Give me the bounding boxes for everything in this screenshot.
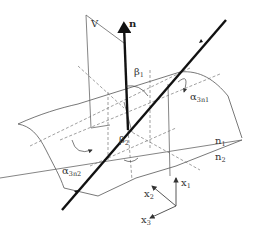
medium1-label: n1 — [215, 135, 226, 148]
plane-label: V — [90, 18, 99, 29]
medium2-label: n2 — [215, 151, 226, 164]
normal-label: n — [129, 18, 137, 29]
normal-vector — [124, 26, 128, 130]
alpha1-label: α3n1 — [190, 91, 209, 104]
ray — [62, 20, 226, 210]
x1-label: x1 — [181, 177, 191, 190]
x2-label: x2 — [144, 188, 154, 201]
plane-v — [86, 15, 124, 128]
refraction-diagram: n V β1 β2 α3n1 α3n2 n1 n2 x1 x2 x3 — [0, 0, 257, 233]
x3-label: x3 — [141, 214, 151, 227]
ray-arrow-upper — [199, 39, 203, 43]
coordinate-axes — [150, 178, 176, 218]
beta1-label: β1 — [134, 66, 144, 79]
